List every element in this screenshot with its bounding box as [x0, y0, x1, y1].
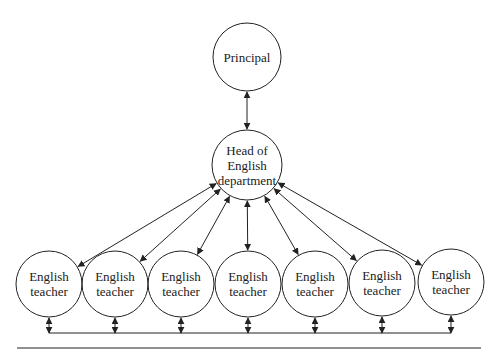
label-line: teacher	[295, 284, 335, 299]
label-line: teacher	[431, 282, 471, 297]
label-line: teacher	[362, 283, 402, 298]
label-line: Head of	[218, 143, 276, 158]
label-line: English	[218, 158, 276, 173]
label-line: department	[218, 173, 276, 188]
teacher-label-4: Englishteacher	[228, 269, 268, 299]
head-teacher-arrow-2	[140, 189, 220, 261]
label-line: English	[431, 267, 471, 282]
head-teacher-arrow-7	[278, 183, 421, 265]
label-line: teacher	[228, 284, 268, 299]
teacher-label-7: Englishteacher	[431, 267, 471, 297]
head-teacher-arrow-6	[274, 189, 356, 261]
label-line: teacher	[95, 284, 135, 299]
teacher-label-1: Englishteacher	[29, 269, 69, 299]
teacher-label-6: Englishteacher	[362, 268, 402, 298]
label-line: English	[295, 269, 335, 284]
teacher-label-5: Englishteacher	[295, 269, 335, 299]
label-line: English	[29, 269, 69, 284]
teacher-label-2: Englishteacher	[95, 269, 135, 299]
head-of-department-label: Head ofEnglishdepartment	[218, 143, 276, 188]
label-line: teacher	[161, 284, 201, 299]
label-line: English	[161, 269, 201, 284]
label-line: English	[362, 268, 402, 283]
principal-label: Principal	[224, 50, 271, 65]
label-line: teacher	[29, 284, 69, 299]
teacher-label-3: Englishteacher	[161, 269, 201, 299]
label-line: English	[228, 269, 268, 284]
label-line: English	[95, 269, 135, 284]
